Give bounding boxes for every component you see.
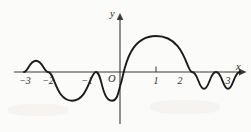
tick-label-x-2: 2: [173, 76, 187, 86]
tick-label-x-neg3: −3: [16, 76, 34, 86]
tick-label-x-neg2: −2: [39, 76, 57, 86]
y-axis-label: y: [110, 9, 115, 20]
tick-label-x-3: 3: [221, 76, 235, 86]
function-curve: [24, 36, 240, 101]
tick-label-x-1: 1: [149, 76, 163, 86]
x-axis-label: x: [236, 62, 241, 73]
y-axis-arrow-icon: [117, 13, 124, 20]
tick-label-x-neg1: −1: [78, 76, 96, 86]
function-graph-figure: y x O −3 −2 −1 1 2 3: [0, 0, 251, 132]
graph-canvas: [0, 0, 251, 132]
origin-label: O: [108, 74, 116, 85]
